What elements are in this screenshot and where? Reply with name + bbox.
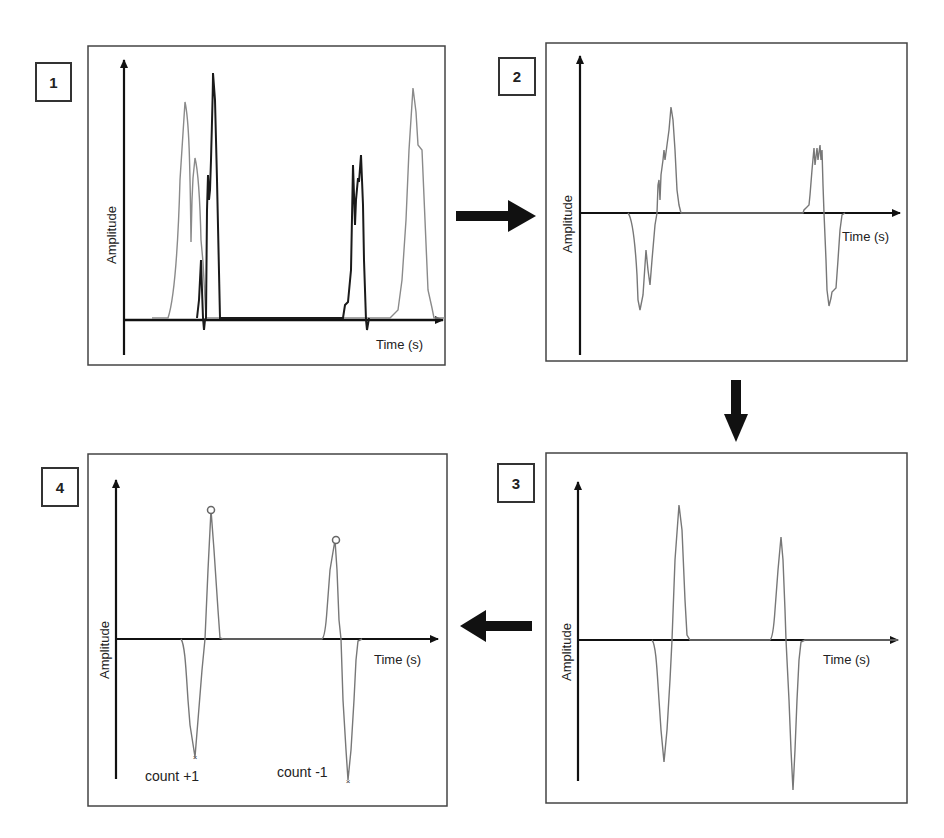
panel-4: Amplitude Time (s) × × count +1 count -1 [88,454,447,806]
panel-1-x-label: Time (s) [376,337,423,352]
panel-2-x-label: Time (s) [842,229,889,244]
panel-1-black-trace [197,73,369,330]
panel-4-peak-marker-1 [208,507,215,514]
count-plus-one-label: count +1 [145,768,199,784]
panel-3-x-label: Time (s) [823,652,870,667]
panel-4-trace [181,510,362,780]
diagram-canvas: 1 2 3 4 Amplitude Time (s) [0,0,944,838]
arrow-right-1-to-2 [456,200,536,232]
panel-3-y-label: Amplitude [559,623,574,681]
panel-1: Amplitude Time (s) [88,46,445,365]
panel-4-peak-marker-2 [333,537,340,544]
panel-3: Amplitude Time (s) [546,453,907,803]
panel-4-trough-marker-1: × [193,753,198,762]
panel-4-frame [88,454,447,806]
panel-4-trough-marker-2: × [346,777,351,786]
arrow-down-2-to-3 [724,380,748,442]
panel-1-y-label: Amplitude [104,206,119,264]
arrow-left-3-to-4 [460,610,532,642]
panel-2: Amplitude Time (s) [546,43,907,361]
panel-4-x-label: Time (s) [374,652,421,667]
panel-3-trace [652,505,898,790]
panel-3-frame [546,453,907,803]
panel-1-grey-trace [152,88,445,318]
panel-2-trace [628,107,845,310]
panel-2-y-label: Amplitude [560,195,575,253]
panel-4-y-label: Amplitude [97,621,112,679]
panel-2-frame [546,43,907,361]
count-minus-one-label: count -1 [277,764,328,780]
